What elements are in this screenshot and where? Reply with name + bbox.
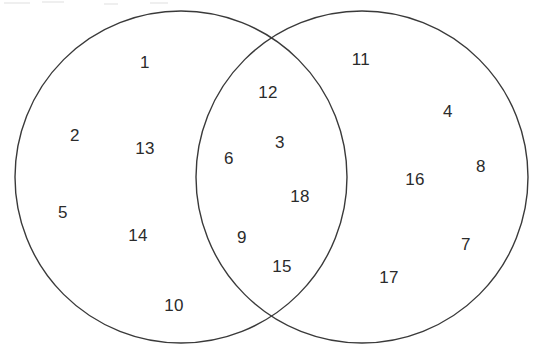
venn-element-4: 4 xyxy=(443,103,453,120)
venn-diagram-canvas: 121351410 123618915 114816717 xyxy=(0,0,541,353)
venn-circles xyxy=(0,0,541,353)
venn-element-2: 2 xyxy=(70,127,80,144)
venn-element-11: 11 xyxy=(352,51,370,68)
venn-element-6: 6 xyxy=(224,150,234,167)
venn-element-7: 7 xyxy=(461,236,471,253)
venn-element-18: 18 xyxy=(290,188,310,205)
venn-element-9: 9 xyxy=(237,229,247,246)
venn-element-12: 12 xyxy=(258,84,278,101)
venn-element-14: 14 xyxy=(128,227,148,244)
venn-element-1: 1 xyxy=(140,54,150,71)
venn-element-15: 15 xyxy=(272,258,292,275)
left-set-circle xyxy=(15,11,347,343)
venn-element-5: 5 xyxy=(58,204,68,221)
venn-element-16: 16 xyxy=(405,171,425,188)
venn-element-10: 10 xyxy=(164,297,184,314)
venn-element-13: 13 xyxy=(135,140,155,157)
venn-element-17: 17 xyxy=(379,269,399,286)
venn-element-8: 8 xyxy=(476,158,486,175)
venn-element-3: 3 xyxy=(275,134,285,151)
